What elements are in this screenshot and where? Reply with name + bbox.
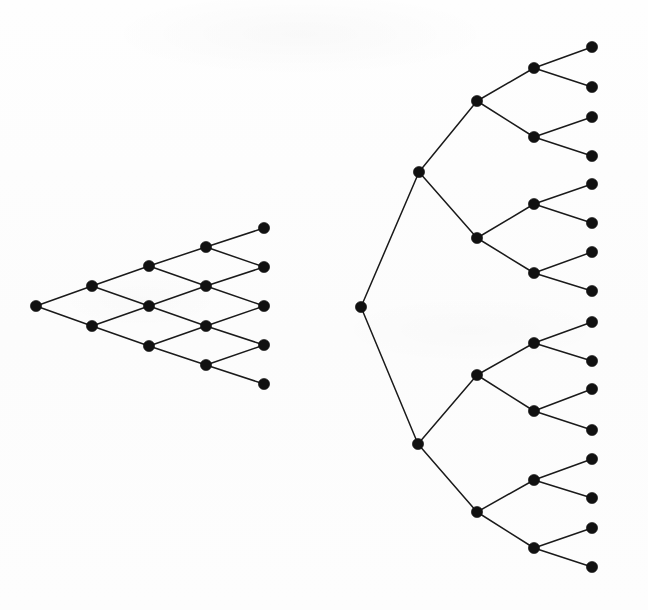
graph-edge xyxy=(418,375,477,444)
figure-canvas xyxy=(0,0,648,610)
graph-edge xyxy=(206,267,264,286)
graph-node[interactable] xyxy=(143,260,154,271)
diagram-svg xyxy=(0,0,648,610)
graph-edge xyxy=(206,286,264,306)
graph-edge xyxy=(206,247,264,267)
graph-node[interactable] xyxy=(258,300,269,311)
graph-edge xyxy=(206,326,264,345)
graph-node[interactable] xyxy=(200,280,211,291)
graph-node[interactable] xyxy=(586,246,597,257)
graph-edge xyxy=(534,137,592,156)
binary-tree-nodes xyxy=(355,41,597,572)
graph-node[interactable] xyxy=(586,111,597,122)
graph-node[interactable] xyxy=(586,150,597,161)
graph-edge xyxy=(92,266,149,286)
graph-node[interactable] xyxy=(471,232,482,243)
graph-edge xyxy=(534,252,592,273)
graph-edge xyxy=(206,306,264,326)
graph-node[interactable] xyxy=(528,542,539,553)
graph-node[interactable] xyxy=(528,131,539,142)
graph-edge xyxy=(149,326,206,346)
recombining-lattice-diagram xyxy=(30,222,269,389)
graph-node[interactable] xyxy=(258,222,269,233)
graph-node[interactable] xyxy=(143,340,154,351)
graph-node[interactable] xyxy=(528,474,539,485)
graph-edge xyxy=(534,459,592,480)
graph-node[interactable] xyxy=(471,95,482,106)
graph-node[interactable] xyxy=(586,383,597,394)
graph-node[interactable] xyxy=(200,359,211,370)
graph-node[interactable] xyxy=(258,261,269,272)
graph-node[interactable] xyxy=(586,178,597,189)
graph-edge xyxy=(206,365,264,384)
graph-edge xyxy=(534,389,592,411)
graph-edge xyxy=(149,306,206,326)
graph-node[interactable] xyxy=(586,424,597,435)
graph-node[interactable] xyxy=(586,81,597,92)
graph-node[interactable] xyxy=(586,355,597,366)
graph-edge xyxy=(534,184,592,204)
graph-node[interactable] xyxy=(86,320,97,331)
graph-node[interactable] xyxy=(200,241,211,252)
graph-node[interactable] xyxy=(586,217,597,228)
graph-node[interactable] xyxy=(586,522,597,533)
graph-edge xyxy=(206,345,264,365)
graph-edge xyxy=(149,266,206,286)
graph-edge xyxy=(477,480,534,512)
graph-edge xyxy=(534,47,592,68)
graph-node[interactable] xyxy=(86,280,97,291)
graph-node[interactable] xyxy=(471,369,482,380)
graph-node[interactable] xyxy=(258,378,269,389)
graph-node[interactable] xyxy=(471,506,482,517)
graph-edge xyxy=(534,204,592,223)
graph-edge xyxy=(92,286,149,306)
graph-edge xyxy=(477,101,534,137)
graph-edge xyxy=(477,238,534,273)
graph-node[interactable] xyxy=(143,300,154,311)
graph-node[interactable] xyxy=(528,198,539,209)
graph-node[interactable] xyxy=(586,316,597,327)
graph-edge xyxy=(149,346,206,365)
graph-edge xyxy=(477,343,534,375)
graph-edge xyxy=(419,172,477,238)
recombining-lattice-nodes xyxy=(30,222,269,389)
graph-edge xyxy=(36,286,92,306)
graph-node[interactable] xyxy=(412,438,423,449)
graph-node[interactable] xyxy=(355,301,366,312)
graph-edge xyxy=(206,228,264,247)
graph-edge xyxy=(92,306,149,326)
graph-edge xyxy=(534,273,592,291)
graph-node[interactable] xyxy=(528,62,539,73)
graph-node[interactable] xyxy=(258,339,269,350)
graph-node[interactable] xyxy=(200,320,211,331)
graph-edge xyxy=(419,101,477,172)
binary-tree-diagram xyxy=(355,41,597,572)
binary-tree-edges xyxy=(361,47,592,567)
graph-edge xyxy=(149,286,206,306)
graph-node[interactable] xyxy=(528,337,539,348)
graph-node[interactable] xyxy=(586,285,597,296)
graph-edge xyxy=(36,306,92,326)
graph-node[interactable] xyxy=(586,453,597,464)
graph-edge xyxy=(418,444,477,512)
graph-edge xyxy=(361,172,419,307)
graph-edge xyxy=(534,117,592,137)
graph-node[interactable] xyxy=(30,300,41,311)
graph-edge xyxy=(534,68,592,87)
graph-node[interactable] xyxy=(586,41,597,52)
graph-edge xyxy=(149,247,206,266)
graph-edge xyxy=(534,480,592,498)
graph-edge xyxy=(534,343,592,361)
graph-edge xyxy=(534,322,592,343)
graph-node[interactable] xyxy=(586,561,597,572)
graph-edge xyxy=(92,326,149,346)
graph-edge xyxy=(534,548,592,567)
graph-edge xyxy=(534,411,592,430)
graph-node[interactable] xyxy=(413,166,424,177)
graph-node[interactable] xyxy=(528,405,539,416)
graph-edge xyxy=(477,204,534,238)
graph-node[interactable] xyxy=(528,267,539,278)
graph-node[interactable] xyxy=(586,492,597,503)
graph-edge xyxy=(534,528,592,548)
graph-edge xyxy=(477,375,534,411)
